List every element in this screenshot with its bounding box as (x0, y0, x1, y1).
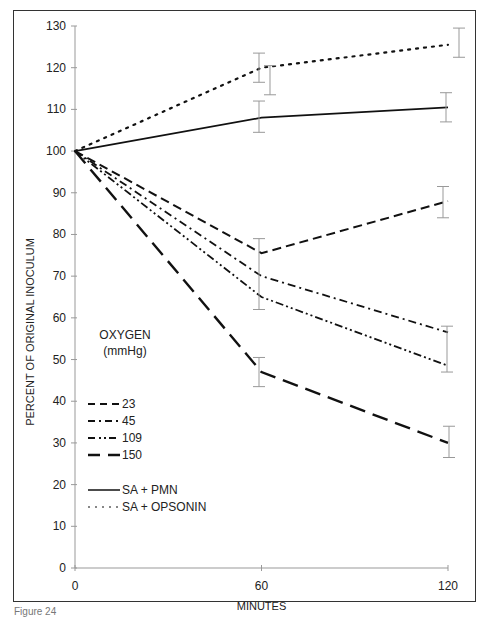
series-line (75, 151, 448, 332)
legend-item: SA + OPSONIN (88, 500, 206, 514)
legend-item: 23 (88, 397, 136, 411)
series-sa-pmn (75, 107, 448, 151)
x-tick-label: 120 (438, 579, 458, 593)
y-tick-label: 120 (46, 61, 66, 75)
legend-item: SA + PMN (88, 483, 178, 497)
y-tick-label: 100 (46, 144, 66, 158)
y-tick-label: 10 (53, 519, 67, 533)
y-tick-label: 80 (53, 227, 67, 241)
legend-title: OXYGEN (99, 328, 150, 342)
legend-item: 45 (88, 414, 136, 428)
legend-label: 150 (122, 448, 142, 462)
y-tick-label: 20 (53, 478, 67, 492)
y-tick-label: 90 (53, 186, 67, 200)
series-23 (75, 151, 448, 253)
legend-label: 109 (122, 431, 142, 445)
legend-label: 23 (122, 397, 136, 411)
x-tick-label: 0 (72, 579, 79, 593)
legend-item: 109 (88, 431, 142, 445)
y-tick-label: 60 (53, 311, 67, 325)
series-line (75, 107, 448, 151)
y-tick-label: 50 (53, 353, 67, 367)
legend-label: SA + OPSONIN (122, 500, 206, 514)
series-45 (75, 151, 448, 332)
legend-item: 150 (88, 448, 142, 462)
legend-label: SA + PMN (122, 483, 178, 497)
figure-caption: Figure 24 (14, 606, 56, 617)
y-tick-label: 70 (53, 269, 67, 283)
y-tick-label: 30 (53, 436, 67, 450)
x-tick-label: 60 (255, 579, 269, 593)
y-tick-label: 110 (47, 102, 66, 116)
series-sa-opsonin (75, 45, 448, 151)
y-tick-label: 40 (53, 394, 67, 408)
series-line (75, 45, 448, 151)
x-axis-title: MINUTES (237, 600, 287, 612)
y-axis-title: PERCENT OF ORIGINAL INOCULUM (24, 238, 36, 426)
legend-label: 45 (122, 414, 136, 428)
error-bars (253, 28, 465, 457)
y-tick-label: 130 (46, 19, 66, 33)
legend-subtitle: (mmHg) (103, 344, 146, 358)
y-tick-label: 0 (59, 561, 66, 575)
line-chart: 0102030405060708090100110120130060120MIN… (0, 0, 485, 622)
series-line (75, 151, 448, 253)
legend: OXYGEN(mmHg)2345109150SA + PMNSA + OPSON… (88, 328, 206, 514)
